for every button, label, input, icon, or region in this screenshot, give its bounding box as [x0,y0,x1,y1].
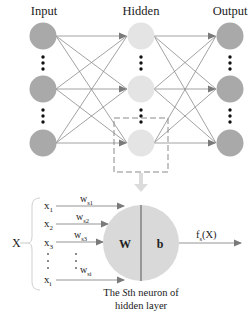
weight-ws3: ws3 [74,229,87,242]
input-node [30,23,57,50]
input-layer-label: Input [31,4,58,18]
input-layer [30,23,57,157]
neuron-caption-line2: hidden layer [115,300,168,311]
input-x3: x3 [44,236,54,251]
hidden-layer [128,23,155,157]
weight-symbol: W [119,237,131,251]
bias-symbol: b [157,237,164,251]
output-node [217,130,244,157]
input-node [30,130,57,157]
input-x1: x1 [44,199,54,214]
input-set-label: X [12,236,21,250]
output-function-label: fs(X) [196,229,217,242]
zoom-down-arrow-icon [134,173,148,192]
weight-labels: ws1 ws2 ws3 wsi [74,193,93,277]
input-ellipsis [47,253,77,269]
hidden-layer-label: Hidden [123,4,161,18]
weight-ws2: ws2 [76,211,89,224]
hidden-node [128,76,155,103]
output-layer [217,23,244,157]
input-node [30,76,57,103]
neuron-caption-line1: The Sth neuron of [103,287,179,298]
detail-neuron: W b [103,205,179,281]
weight-wsi: wsi [80,264,92,277]
input-brace [28,198,40,290]
hidden-node-selected [128,130,155,157]
neural-network-diagram: Input Hidden Output [0,0,252,319]
output-layer-label: Output [213,4,248,18]
weight-ws1: ws1 [80,193,93,206]
output-node [217,23,244,50]
output-node [217,76,244,103]
hidden-node [128,23,155,50]
input-hidden-edges [56,36,127,143]
input-x2: x2 [44,217,54,232]
hidden-output-edges [154,36,216,143]
input-xi: xi [44,273,52,288]
neuron-inputs: x1 x2 x3 xi [44,199,54,288]
